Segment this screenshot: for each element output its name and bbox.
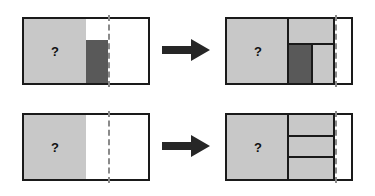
panel-bottom-right-contents: ? — [227, 115, 351, 179]
transform-arrow-bottom — [162, 135, 210, 157]
panel-top-right: ? — [225, 17, 353, 85]
panel-bottom-right: ? — [225, 113, 353, 181]
stacked-light-block-1 — [289, 115, 333, 137]
unknown-label: ? — [24, 19, 86, 83]
panel-top-left: ? — [22, 17, 150, 85]
dark-block — [86, 40, 108, 83]
unknown-label: ? — [227, 115, 289, 179]
dark-block — [289, 45, 311, 83]
empty-right-region — [108, 19, 148, 83]
unknown-label: ? — [227, 19, 289, 83]
panel-top-right-contents: ? — [227, 19, 351, 83]
dashed-divider — [335, 15, 337, 87]
panel-top-left-contents: ? — [24, 19, 148, 83]
dashed-divider — [108, 15, 110, 87]
figure-canvas: ? ? — [0, 0, 375, 196]
panel-bottom-left: ? — [22, 113, 150, 181]
panel-bottom-left-contents: ? — [24, 115, 148, 179]
empty-right-region — [86, 115, 148, 179]
dashed-divider — [335, 111, 337, 183]
unknown-label: ? — [24, 115, 86, 179]
upper-light-block — [287, 17, 335, 45]
stacked-light-block-3 — [289, 158, 333, 179]
transform-arrow-top — [162, 39, 210, 61]
lower-right-light-block — [311, 45, 333, 83]
stacked-light-block-2 — [289, 137, 333, 158]
empty-notch — [86, 19, 108, 40]
dashed-divider — [108, 111, 110, 183]
